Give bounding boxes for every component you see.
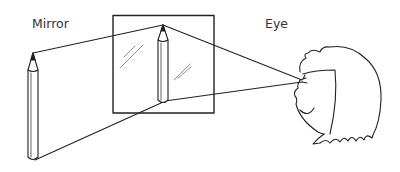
object-pencil: [28, 53, 38, 160]
glass-glint-icon: [120, 45, 191, 80]
mirror-reflection-diagram: Mirror Eye: [0, 0, 400, 172]
image-pencil: [158, 25, 168, 103]
diagram-drawing: [0, 0, 400, 172]
observer-head-icon: [294, 46, 381, 144]
